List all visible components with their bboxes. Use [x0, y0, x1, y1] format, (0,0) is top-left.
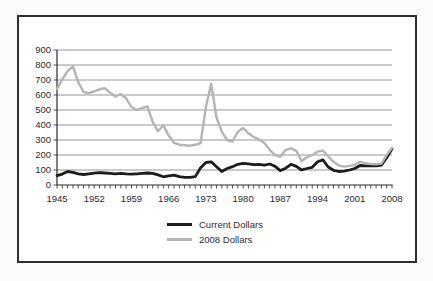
y-axis-label: 0: [46, 179, 51, 190]
legend-label-2008-dollars: 2008 Dollars: [199, 235, 252, 245]
chart-legend: Current Dollars 2008 Dollars: [167, 219, 263, 245]
figure-page: { "figure": { "background": "#ffffff", "…: [0, 0, 433, 281]
x-axis-label: 1980: [233, 193, 254, 204]
x-axis-label: 1994: [307, 193, 328, 204]
x-axis-label: 2008: [381, 193, 402, 204]
x-axis-label: 1952: [84, 193, 105, 204]
y-axis-label: 600: [35, 89, 51, 100]
legend-line-swatch-2008-dollars: [167, 238, 192, 240]
x-axis-label: 2001: [344, 193, 365, 204]
y-axis-label: 400: [35, 119, 51, 130]
legend-line-swatch-current-dollars: [167, 223, 192, 226]
y-axis-label: 700: [35, 74, 51, 85]
series-line-2008-dollars: [57, 67, 392, 167]
y-axis-label: 100: [35, 164, 51, 175]
x-axis-label: 1959: [121, 193, 142, 204]
y-axis-label: 900: [35, 44, 51, 55]
x-axis-label: 1945: [46, 193, 67, 204]
legend-label-current-dollars: Current Dollars: [199, 220, 263, 230]
x-axis-label: 1987: [270, 193, 291, 204]
x-axis-label: 1966: [158, 193, 179, 204]
legend-item-current-dollars: Current Dollars: [167, 219, 263, 230]
series-line-current-dollars: [57, 149, 392, 178]
y-axis-label: 200: [35, 149, 51, 160]
y-axis-label: 300: [35, 134, 51, 145]
y-axis-label: 500: [35, 104, 51, 115]
legend-item-2008-dollars: 2008 Dollars: [167, 234, 263, 245]
x-axis-label: 1973: [195, 193, 216, 204]
y-axis-label: 800: [35, 59, 51, 70]
